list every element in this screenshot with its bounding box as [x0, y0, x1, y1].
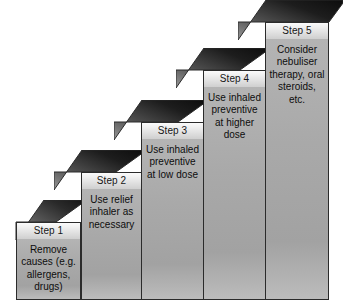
- step-3-band: Step 3: [141, 122, 204, 139]
- step-5-band: Step 5: [265, 22, 329, 39]
- step-5-body: Consider nebuliser therapy, oral steroid…: [265, 39, 329, 300]
- step-3-body: Use inhaled preventive at low dose: [141, 139, 204, 300]
- step-2-body: Use relief inhaler as necessary: [81, 189, 142, 300]
- staircase-diagram: Step 5 Consider nebuliser therapy, oral …: [0, 0, 343, 308]
- step-3-label: Step 3: [158, 126, 188, 136]
- step-1-label: Step 1: [34, 226, 64, 236]
- step-2-label: Step 2: [97, 176, 127, 186]
- step-5-label: Step 5: [282, 26, 312, 36]
- step-2-text: Use relief inhaler as necessary: [85, 194, 138, 231]
- step-2-band: Step 2: [81, 172, 142, 189]
- step-1-band: Step 1: [16, 222, 81, 239]
- step-4-text: Use inhaled preventive at higher dose: [207, 92, 262, 142]
- step-1-text: Remove causes (e.g. allergens, drugs): [20, 244, 77, 294]
- step-3-text: Use inhaled preventive at low dose: [145, 144, 200, 181]
- step-1-body: Remove causes (e.g. allergens, drugs): [16, 239, 81, 300]
- step-4-label: Step 4: [220, 74, 250, 84]
- step-4-band: Step 4: [203, 70, 266, 87]
- step-4-body: Use inhaled preventive at higher dose: [203, 87, 266, 300]
- step-5-text: Consider nebuliser therapy, oral steroid…: [269, 44, 325, 106]
